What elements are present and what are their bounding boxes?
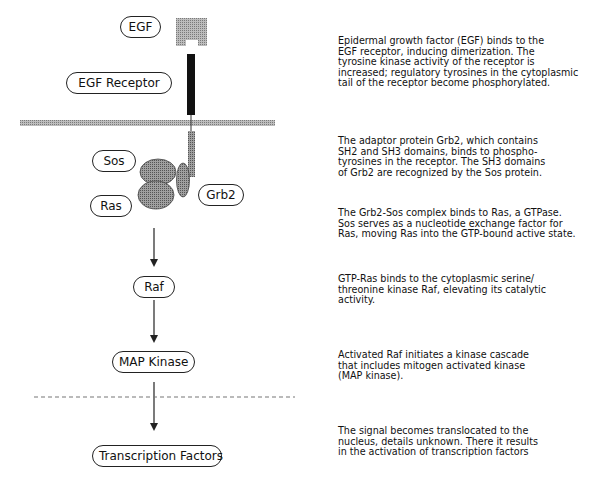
node-map-kinase: MAP Kinase: [112, 351, 195, 373]
description-map-kinase: Activated Raf initiates a kinase cascade…: [338, 350, 588, 382]
node-ras: Ras: [90, 195, 132, 217]
cell-membrane: [20, 120, 275, 126]
node-raf: Raf: [133, 276, 175, 298]
description-transcription: The signal becomes translocated to the n…: [338, 426, 588, 458]
node-grb2: Grb2: [198, 184, 244, 206]
arrow-mapk-to-tf: [150, 382, 158, 431]
ras-protein-shape: [138, 181, 174, 209]
receptor-cytoplasmic-tail: [188, 131, 195, 177]
description-grb2-sos-ras: The Grb2-Sos complex binds to Ras, a GTP…: [338, 208, 588, 240]
egf-receptor-shape: [187, 54, 195, 115]
node-transcription-factors: Transcription Factors: [92, 445, 222, 467]
node-sos: Sos: [92, 150, 136, 172]
grb2-protein-shape: [177, 163, 190, 197]
arrow-ras-to-raf: [150, 228, 158, 267]
egf-signaling-diagram: EGF EGF Receptor Sos Ras Grb2 Raf MAP Ki…: [0, 0, 589, 483]
description-grb2: The adaptor protein Grb2, which contains…: [338, 136, 588, 178]
description-raf: GTP-Ras binds to the cytoplasmic serine/…: [338, 274, 588, 306]
egf-ligand-shape: [176, 18, 207, 46]
description-egf-binding: Epidermal growth factor (EGF) binds to t…: [338, 36, 588, 89]
node-egf-receptor: EGF Receptor: [66, 72, 172, 94]
arrow-raf-to-mapk: [150, 300, 158, 343]
node-egf: EGF: [120, 16, 161, 38]
